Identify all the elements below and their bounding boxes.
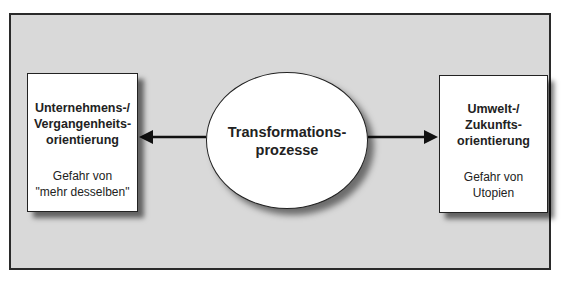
arrow-head-right-icon: [424, 130, 438, 144]
future-orientation-risk: Gefahr von Utopien: [440, 169, 547, 201]
past-orientation-box: Unternehmens-/ Vergangenheits- orientier…: [27, 73, 138, 212]
future-orientation-box: Umwelt-/ Zukunfts- orientierung Gefahr v…: [439, 75, 548, 213]
arrow-head-left-icon: [139, 130, 153, 144]
transformation-process-title: Transformations- prozesse: [228, 123, 346, 159]
transformation-process-ellipse: Transformations- prozesse: [206, 72, 368, 209]
past-orientation-title: Unternehmens-/ Vergangenheits- orientier…: [28, 100, 137, 148]
past-orientation-risk: Gefahr von "mehr desselben": [28, 168, 137, 200]
future-orientation-title: Umwelt-/ Zukunfts- orientierung: [440, 101, 547, 149]
